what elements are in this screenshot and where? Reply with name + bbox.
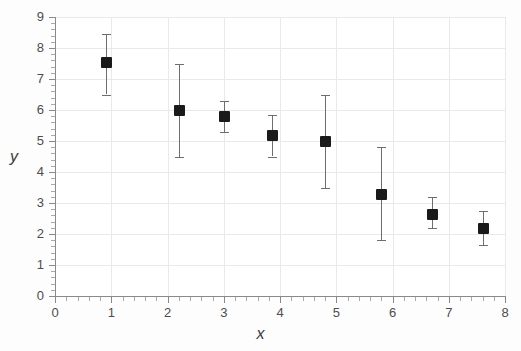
- y-tick-minor: [51, 36, 55, 37]
- x-tick-minor: [179, 297, 180, 301]
- errorbar-cap-upper: [175, 64, 184, 65]
- y-tick-major: [49, 141, 55, 142]
- x-tick-label: 4: [267, 306, 293, 319]
- x-tick-minor: [190, 297, 191, 301]
- x-tick-minor: [348, 297, 349, 301]
- y-tick-minor: [51, 42, 55, 43]
- x-tick-minor: [438, 297, 439, 301]
- x-tick-minor: [235, 297, 236, 301]
- y-tick-label: 4: [22, 165, 44, 178]
- x-tick-major: [336, 297, 337, 303]
- gridline-vertical: [168, 17, 169, 296]
- x-tick-minor: [213, 297, 214, 301]
- y-tick-minor: [51, 147, 55, 148]
- x-tick-major: [55, 297, 56, 303]
- y-tick-major: [49, 172, 55, 173]
- y-tick-minor: [51, 209, 55, 210]
- data-point-marker: [219, 111, 230, 122]
- y-tick-label: 1: [22, 258, 44, 271]
- y-tick-minor: [51, 228, 55, 229]
- y-tick-label: 2: [22, 227, 44, 240]
- x-tick-minor: [314, 297, 315, 301]
- y-tick-minor: [51, 73, 55, 74]
- y-axis-title: y: [10, 148, 18, 166]
- y-tick-minor: [51, 277, 55, 278]
- x-tick-minor: [66, 297, 67, 301]
- x-tick-major: [111, 297, 112, 303]
- x-tick-minor: [359, 297, 360, 301]
- x-tick-minor: [291, 297, 292, 301]
- y-tick-minor: [51, 135, 55, 136]
- x-tick-label: 8: [492, 306, 518, 319]
- y-tick-minor: [51, 240, 55, 241]
- x-tick-minor: [269, 297, 270, 301]
- x-tick-label: 5: [323, 306, 349, 319]
- y-tick-minor: [51, 184, 55, 185]
- x-tick-minor: [381, 297, 382, 301]
- gridline-vertical: [449, 17, 450, 296]
- y-tick-minor: [51, 85, 55, 86]
- y-tick-minor: [51, 122, 55, 123]
- gridline-vertical: [280, 17, 281, 296]
- x-tick-minor: [201, 297, 202, 301]
- data-point-marker: [267, 130, 278, 141]
- data-point-marker: [427, 209, 438, 220]
- errorbar-cap-lower: [268, 157, 277, 158]
- y-tick-label: 0: [22, 289, 44, 302]
- y-tick-minor: [51, 116, 55, 117]
- y-tick-label: 7: [22, 72, 44, 85]
- y-tick-minor: [51, 153, 55, 154]
- x-tick-major: [280, 297, 281, 303]
- errorbar-cap-lower: [377, 240, 386, 241]
- y-tick-minor: [51, 191, 55, 192]
- y-tick-minor: [51, 246, 55, 247]
- x-tick-minor: [494, 297, 495, 301]
- y-tick-minor: [51, 104, 55, 105]
- y-tick-minor: [51, 259, 55, 260]
- gridline-vertical: [393, 17, 394, 296]
- data-point-marker: [101, 57, 112, 68]
- x-tick-minor: [100, 297, 101, 301]
- y-tick-minor: [51, 215, 55, 216]
- gridline-vertical: [224, 17, 225, 296]
- errorbar-cap-lower: [102, 95, 111, 96]
- x-tick-major: [168, 297, 169, 303]
- gridline-vertical: [505, 17, 506, 296]
- errorbar-cap-upper: [102, 34, 111, 35]
- x-tick-major: [449, 297, 450, 303]
- x-tick-minor: [325, 297, 326, 301]
- y-tick-minor: [51, 160, 55, 161]
- y-tick-minor: [51, 29, 55, 30]
- y-tick-minor: [51, 271, 55, 272]
- y-tick-major: [49, 48, 55, 49]
- y-tick-minor: [51, 253, 55, 254]
- errorbar-cap-lower: [428, 228, 437, 229]
- data-point-marker: [478, 223, 489, 234]
- errorbar-cap-upper: [428, 197, 437, 198]
- x-tick-minor: [370, 297, 371, 301]
- gridline-vertical: [336, 17, 337, 296]
- x-tick-minor: [483, 297, 484, 301]
- errorbar-cap-upper: [268, 115, 277, 116]
- x-tick-minor: [134, 297, 135, 301]
- x-tick-label: 1: [98, 306, 124, 319]
- y-tick-minor: [51, 197, 55, 198]
- x-tick-major: [505, 297, 506, 303]
- y-tick-major: [49, 17, 55, 18]
- chart-container: 0123456789 012345678 y x: [0, 0, 521, 351]
- x-tick-label: 7: [436, 306, 462, 319]
- x-tick-major: [393, 297, 394, 303]
- y-tick-minor: [51, 222, 55, 223]
- y-tick-major: [49, 234, 55, 235]
- y-axis-line: [55, 17, 56, 297]
- x-tick-minor: [246, 297, 247, 301]
- errorbar-cap-lower: [479, 245, 488, 246]
- y-tick-minor: [51, 166, 55, 167]
- y-tick-minor: [51, 284, 55, 285]
- errorbar-cap-lower: [321, 188, 330, 189]
- y-tick-major: [49, 110, 55, 111]
- y-tick-label: 9: [22, 10, 44, 23]
- x-tick-minor: [404, 297, 405, 301]
- y-tick-major: [49, 203, 55, 204]
- y-tick-minor: [51, 60, 55, 61]
